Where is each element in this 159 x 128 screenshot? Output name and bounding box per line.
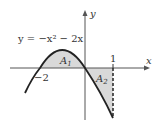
- diagram-canvas: y = −x² − 2x y x −2 1 A1 A2: [0, 0, 159, 128]
- y-axis-label: y: [89, 8, 96, 19]
- tick-label-neg2: −2: [34, 72, 49, 83]
- equation-label: y = −x² − 2x: [17, 33, 84, 44]
- x-axis-arrow-icon: [144, 66, 150, 71]
- y-axis-arrow-icon: [83, 10, 88, 16]
- area-diagram: y = −x² − 2x y x −2 1 A1 A2: [0, 0, 159, 128]
- tick-label-1: 1: [110, 53, 116, 64]
- x-axis-label: x: [146, 55, 152, 66]
